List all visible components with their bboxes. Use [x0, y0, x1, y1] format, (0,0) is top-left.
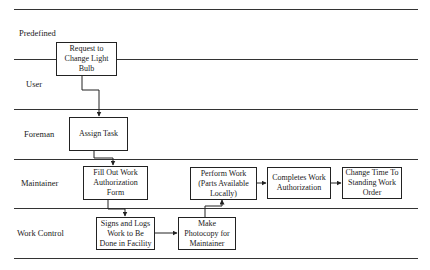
- box-perform-work: Perform Work (Parts Available Locally): [190, 167, 257, 200]
- box-fill-out-work-authorization: Fill Out Work Authorization Form: [83, 166, 148, 200]
- box-request-change-light-bulb: Request to Change Light Bulb: [56, 42, 117, 76]
- box-change-time-standing-work-order: Change Time To Standing Work Order: [342, 167, 402, 199]
- box-assign-task: Assign Task: [69, 117, 128, 151]
- box-signs-and-logs: Signs and Logs Work to Be Done in Facili…: [96, 217, 155, 250]
- box-make-photocopy: Make Photocopy for Maintainer: [178, 217, 236, 250]
- box-completes-work-authorization: Completes Work Authorization: [267, 167, 331, 199]
